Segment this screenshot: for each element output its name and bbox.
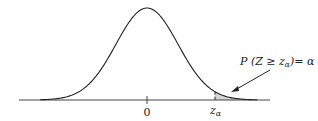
normal-curve-chart: 0 zα P (Z ≥ zα)= α [0,0,318,121]
probability-annotation: P (Z ≥ zα)= α [239,55,315,69]
zero-label: 0 [144,106,151,119]
critical-value-label: zα [209,104,222,118]
annotation-arrow [235,70,270,90]
density-curve [40,8,257,100]
arrow-head-icon [231,86,239,92]
